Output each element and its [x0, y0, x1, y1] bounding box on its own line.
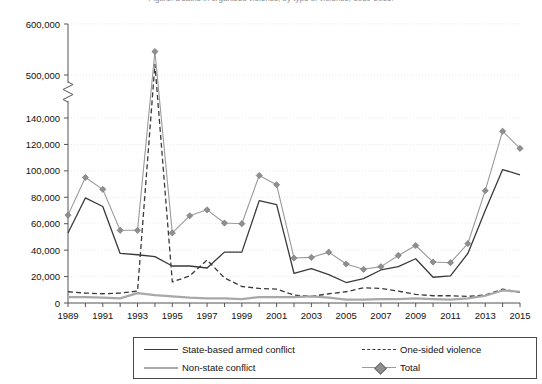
- diamond-marker-line-icon: [362, 363, 396, 373]
- series-state-based-armed-conflict: [68, 170, 520, 283]
- data-point-marker: [291, 255, 297, 261]
- data-point-marker: [378, 264, 384, 270]
- data-point-marker: [308, 254, 314, 260]
- svg-text:600,000: 600,000: [26, 19, 60, 30]
- svg-text:2011: 2011: [440, 310, 460, 321]
- chart-legend: State-based armed conflict One-sided vio…: [133, 337, 537, 379]
- data-point-marker: [274, 182, 280, 188]
- solid-dark-line-icon: [144, 345, 178, 355]
- data-point-marker: [256, 172, 262, 178]
- svg-text:2001: 2001: [266, 310, 287, 321]
- chart-area: 020,00040,00060,00080,000100,000120,0001…: [0, 0, 542, 330]
- svg-text:40,000: 40,000: [31, 245, 60, 256]
- svg-text:2003: 2003: [301, 310, 322, 321]
- violence-deaths-line-chart: 020,00040,00060,00080,000100,000120,0001…: [0, 0, 542, 330]
- svg-text:2015: 2015: [509, 310, 530, 321]
- svg-text:2009: 2009: [405, 310, 426, 321]
- legend-item-total: Total: [362, 362, 420, 373]
- data-point-marker: [134, 227, 140, 233]
- svg-text:1995: 1995: [162, 310, 183, 321]
- legend-label-state-based: State-based armed conflict: [182, 344, 295, 355]
- solid-gray-line-icon: [144, 363, 178, 373]
- svg-text:80,000: 80,000: [31, 192, 60, 203]
- svg-text:100,000: 100,000: [26, 165, 60, 176]
- svg-text:500,000: 500,000: [26, 70, 60, 81]
- legend-item-state-based: State-based armed conflict: [144, 344, 295, 355]
- data-point-marker: [100, 186, 106, 192]
- legend-label-non-state: Non-state conflict: [182, 362, 255, 373]
- data-point-marker: [117, 227, 123, 233]
- svg-text:2007: 2007: [370, 310, 391, 321]
- data-point-marker: [82, 174, 88, 180]
- legend-item-non-state: Non-state conflict: [144, 362, 255, 373]
- series-total: [68, 52, 520, 270]
- svg-text:0: 0: [55, 298, 60, 309]
- data-point-marker: [343, 261, 349, 267]
- dashed-line-icon: [362, 345, 396, 355]
- data-point-marker: [65, 212, 71, 218]
- data-point-marker: [482, 188, 488, 194]
- svg-text:120,000: 120,000: [26, 139, 60, 150]
- data-point-marker: [239, 221, 245, 227]
- legend-item-one-sided: One-sided violence: [362, 344, 481, 355]
- svg-text:1997: 1997: [197, 310, 218, 321]
- data-point-marker: [395, 252, 401, 258]
- data-point-marker: [152, 48, 158, 54]
- svg-text:20,000: 20,000: [31, 271, 60, 282]
- legend-label-one-sided: One-sided violence: [400, 344, 481, 355]
- legend-label-total: Total: [400, 362, 420, 373]
- svg-text:1993: 1993: [127, 310, 148, 321]
- svg-text:60,000: 60,000: [31, 218, 60, 229]
- svg-text:140,000: 140,000: [26, 113, 60, 124]
- svg-text:2013: 2013: [475, 310, 496, 321]
- data-point-marker: [360, 266, 366, 272]
- svg-text:2005: 2005: [336, 310, 357, 321]
- svg-text:1991: 1991: [92, 310, 113, 321]
- svg-text:1999: 1999: [231, 310, 252, 321]
- svg-text:1989: 1989: [57, 310, 78, 321]
